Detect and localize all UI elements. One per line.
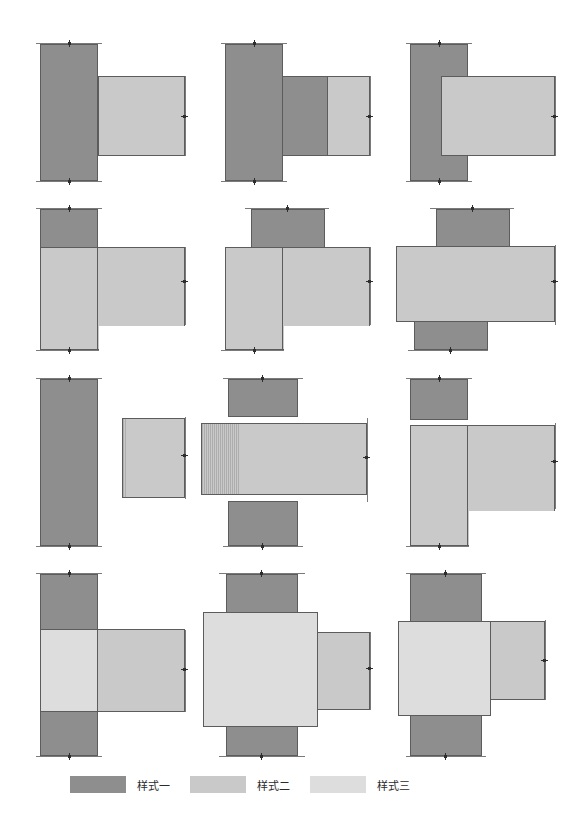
beam-member [201,423,367,495]
legend-swatch-style-1 [70,776,126,793]
notch-mask [469,511,556,549]
panel-lower-stub [40,247,98,350]
column-member-top [436,209,510,247]
joint-panel-member [203,612,318,727]
support-line-right [370,632,371,710]
beam-member [98,76,185,156]
legend: 样式一 样式二 样式三 [0,772,585,802]
legend-item-3: 样式三 [310,776,410,793]
joint-panel-member [40,629,98,712]
legend-label-style-3: 样式三 [377,777,410,793]
diagram-cell-8 [195,365,390,550]
beam-member [97,629,185,712]
haunch-member [282,76,328,156]
diagram-cell-11 [195,560,390,760]
diagram-cell-2 [195,30,380,185]
notch-mask [284,326,371,352]
support-line-right [185,417,186,499]
beam-member [441,76,555,156]
diagram-cell-10 [10,560,195,760]
column-member-bottom [410,715,482,756]
legend-item-2: 样式二 [190,776,290,793]
column-member [251,209,325,248]
diagram-cell-1 [10,30,195,185]
column-member-top [40,574,98,630]
column-member-top [226,574,298,613]
column-member [40,44,98,181]
beam-member [490,621,545,700]
diagram-cell-6 [380,195,575,355]
support-line-right [185,630,186,712]
support-line-right [555,423,556,509]
diagram-cell-9 [380,365,575,550]
beam-member [327,76,370,156]
support-line-right [367,418,368,502]
support-line-bottom [408,350,488,351]
panel-lower-stub [225,247,283,350]
column-member-bottom [414,321,488,350]
column-member-top [410,574,482,622]
legend-label-style-1: 样式一 [137,777,170,793]
support-line-right [555,245,556,325]
legend-swatch-style-2 [190,776,246,793]
column-member [40,379,98,546]
column-member [40,209,98,248]
beam-member [317,632,370,710]
diagram-cell-3 [380,30,575,185]
diagram-cell-5 [195,195,380,355]
column-member-top [228,379,298,417]
legend-label-style-2: 样式二 [257,777,290,793]
legend-item-1: 样式一 [70,776,170,793]
notch-mask [99,326,186,352]
support-line-right [185,247,186,325]
column-member-bottom [228,501,298,546]
diagram-cell-7 [10,365,195,550]
joint-panel-member [398,621,491,716]
column-member [225,44,283,181]
panel-lower-stub [410,425,468,546]
legend-swatch-style-3 [310,776,366,793]
column-member [410,379,468,420]
diagram-cell-12 [380,560,575,760]
column-member-bottom [226,726,298,756]
diagram-grid [0,20,585,760]
diagram-cell-4 [10,195,195,355]
beam-member [396,246,555,322]
support-line-right [370,247,371,325]
beam-member [122,418,185,498]
column-member-bottom [40,711,98,756]
